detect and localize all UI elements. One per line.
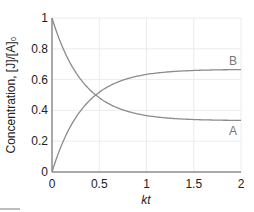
- decorative-rule: [0, 208, 20, 210]
- y-axis-label: Concentration, [J]/[A]₀: [4, 36, 18, 153]
- chart: 00.511.5200.20.40.60.81 kt Concentration…: [0, 0, 254, 212]
- x-tick-label: 2: [238, 177, 245, 191]
- tick-labels: 00.511.5200.20.40.60.81: [31, 11, 244, 191]
- y-tick-label: 1: [41, 11, 48, 25]
- series-label-b: B: [229, 54, 237, 68]
- y-tick-label: 0.4: [31, 103, 48, 117]
- y-tick-label: 0.2: [31, 134, 48, 148]
- x-tick-label: 1: [143, 177, 150, 191]
- grid: [52, 18, 241, 172]
- y-tick-label: 0.8: [31, 42, 48, 56]
- y-tick-label: 0: [41, 165, 48, 179]
- x-axis-label: kt: [141, 193, 151, 207]
- y-tick-label: 0.6: [31, 73, 48, 87]
- series-label-a: A: [229, 124, 237, 138]
- x-tick-label: 0.5: [91, 177, 108, 191]
- x-tick-label: 0: [49, 177, 56, 191]
- x-tick-label: 1.5: [185, 177, 202, 191]
